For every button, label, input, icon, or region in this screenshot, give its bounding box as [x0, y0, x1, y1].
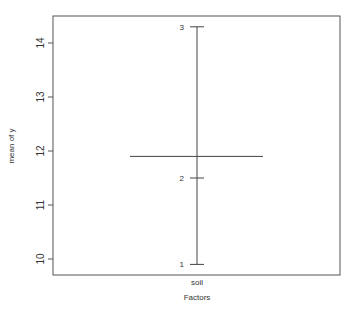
x-tick-label: soil	[191, 278, 203, 287]
y-axis-label: mean of y	[7, 128, 16, 163]
level-label: 2	[180, 174, 185, 183]
y-tick-label: 11	[35, 199, 46, 210]
level-label: 3	[180, 23, 185, 32]
y-tick-label: 14	[35, 37, 46, 49]
x-axis-label: Factors	[184, 293, 211, 302]
y-tick-label: 10	[35, 253, 46, 265]
design-plot: 1011121314mean of y123soilFactors	[0, 0, 362, 315]
y-tick-label: 13	[35, 91, 46, 103]
y-tick-label: 12	[35, 145, 46, 157]
level-label: 1	[180, 260, 185, 269]
